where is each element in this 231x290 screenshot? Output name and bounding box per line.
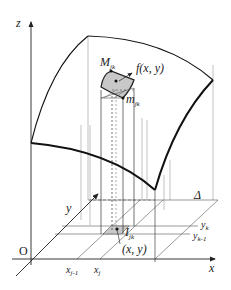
min-label: mjk — [126, 92, 141, 108]
origin-label: O — [19, 244, 28, 258]
z-axis-label: z — [15, 16, 21, 30]
surface-outline — [31, 36, 213, 190]
cell-label: Ijk — [124, 225, 135, 241]
y-tick-k-1: yk-1 — [192, 230, 206, 243]
x-tick-j-1: xj-1 — [65, 264, 78, 277]
y-axis — [16, 194, 98, 276]
region-label: Δ — [193, 188, 201, 202]
x-tick-j: xj — [93, 264, 100, 277]
double-integral-diagram: z x y O Δ xj-1 xj yk yk-1 Ijk (x, y) Mjk… — [0, 0, 231, 290]
x-axis-label: x — [208, 261, 215, 275]
point-label: (x, y) — [122, 242, 147, 256]
value-point — [115, 80, 118, 83]
diagram-canvas: z x y O Δ xj-1 xj yk yk-1 Ijk (x, y) Mjk… — [0, 0, 231, 290]
max-label: Mjk — [99, 55, 116, 71]
y-tick-k: yk — [200, 219, 209, 232]
y-axis-label: y — [65, 201, 72, 215]
min-point — [122, 97, 125, 100]
function-label: f(x, y) — [136, 61, 164, 75]
